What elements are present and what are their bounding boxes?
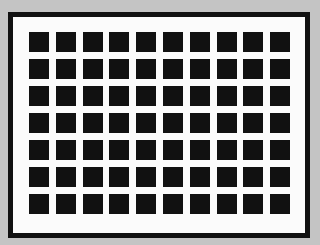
black-square <box>270 32 290 52</box>
black-square <box>190 86 210 106</box>
black-square <box>29 86 49 106</box>
black-square <box>136 59 156 79</box>
black-square <box>190 167 210 187</box>
black-square <box>109 194 129 214</box>
black-square <box>83 140 103 160</box>
black-square <box>270 194 290 214</box>
black-square <box>217 113 237 133</box>
black-square <box>109 32 129 52</box>
black-square <box>217 32 237 52</box>
black-square <box>29 59 49 79</box>
black-square <box>109 167 129 187</box>
black-square <box>56 59 76 79</box>
black-square <box>136 140 156 160</box>
black-square <box>243 194 263 214</box>
black-square <box>270 113 290 133</box>
black-square <box>109 59 129 79</box>
black-square <box>190 140 210 160</box>
square-grid <box>29 32 290 214</box>
black-square <box>270 140 290 160</box>
black-square <box>270 86 290 106</box>
black-square <box>243 32 263 52</box>
black-square <box>56 140 76 160</box>
black-square <box>136 167 156 187</box>
black-square <box>190 194 210 214</box>
black-square <box>83 113 103 133</box>
black-square <box>190 113 210 133</box>
black-square <box>83 59 103 79</box>
black-square <box>136 113 156 133</box>
black-square <box>136 32 156 52</box>
black-square <box>190 32 210 52</box>
black-square <box>29 194 49 214</box>
black-square <box>163 140 183 160</box>
black-square <box>56 113 76 133</box>
black-square <box>217 140 237 160</box>
black-square <box>243 113 263 133</box>
black-square <box>109 113 129 133</box>
black-square <box>163 194 183 214</box>
black-square <box>243 59 263 79</box>
black-square <box>109 86 129 106</box>
black-square <box>163 59 183 79</box>
black-square <box>83 194 103 214</box>
black-square <box>190 59 210 79</box>
black-square <box>217 194 237 214</box>
black-square <box>217 167 237 187</box>
black-square <box>83 86 103 106</box>
black-square <box>163 113 183 133</box>
black-square <box>109 140 129 160</box>
black-square <box>163 86 183 106</box>
black-square <box>56 86 76 106</box>
black-square <box>29 167 49 187</box>
black-square <box>217 86 237 106</box>
black-square <box>29 32 49 52</box>
black-square <box>83 32 103 52</box>
black-square <box>136 86 156 106</box>
black-square <box>243 86 263 106</box>
black-square <box>270 59 290 79</box>
black-square <box>243 140 263 160</box>
black-square <box>136 194 156 214</box>
black-square <box>270 167 290 187</box>
black-square <box>163 32 183 52</box>
black-square <box>56 194 76 214</box>
black-square <box>83 167 103 187</box>
black-square <box>56 167 76 187</box>
black-square <box>56 32 76 52</box>
black-square <box>29 113 49 133</box>
black-square <box>217 59 237 79</box>
black-square <box>243 167 263 187</box>
black-square <box>163 167 183 187</box>
black-square <box>29 140 49 160</box>
